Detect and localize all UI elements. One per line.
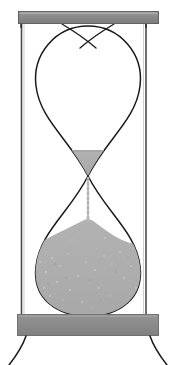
top-cap-highlight <box>20 13 157 15</box>
bottom-cap <box>17 314 159 336</box>
bottom-cap-highlight <box>19 316 157 317</box>
bottom-cap-bar <box>17 314 159 336</box>
hourglass-canvas <box>0 0 177 365</box>
hourglass-illustration: Grayscale illustration of an hourglass w… <box>0 0 177 365</box>
